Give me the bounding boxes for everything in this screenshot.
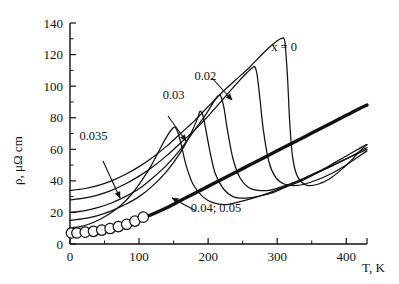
y-tick-label: 100 (44, 79, 64, 94)
x-tick-label: 300 (267, 249, 287, 264)
label-0035-arrowhead (115, 192, 120, 198)
curve-annotations-group: x = 00.020.030.0350.04; 0.05 (79, 40, 297, 215)
label-004-005: 0.04; 0.05 (191, 201, 241, 215)
y-tick-label: 40 (50, 173, 63, 188)
x-axis-ticks (70, 238, 367, 244)
y-tick-label: 60 (50, 142, 63, 157)
label-x0: x = 0 (271, 40, 297, 54)
resistivity-chart-figure: 020406080100120140 0100200300400 x = 00.… (0, 0, 399, 284)
x-axis-tick-labels: 0100200300400 (67, 249, 356, 264)
y-tick-label: 80 (50, 110, 63, 125)
curve-series-2 (70, 95, 367, 212)
x-axis-title: T, K (362, 260, 385, 275)
y-axis-tick-labels: 020406080100120140 (44, 16, 64, 252)
data-marker (138, 212, 148, 222)
x-tick-label: 100 (129, 249, 149, 264)
y-axis-title: ρ, μΩ cm (10, 136, 25, 185)
y-tick-label: 0 (57, 237, 64, 252)
y-tick-label: 120 (44, 47, 64, 62)
label-002: 0.02 (194, 69, 216, 83)
x-tick-label: 0 (67, 249, 74, 264)
label-0035: 0.035 (79, 129, 107, 143)
curve-series-0 (70, 38, 367, 190)
x-tick-label: 400 (337, 249, 357, 264)
y-axis-ticks (70, 23, 76, 244)
x-tick-label: 200 (198, 249, 218, 264)
data-markers-group (66, 212, 148, 238)
label-003: 0.03 (163, 88, 185, 102)
y-tick-label: 20 (50, 205, 63, 220)
chart-canvas: 020406080100120140 0100200300400 x = 00.… (0, 0, 399, 284)
y-tick-label: 140 (44, 16, 64, 31)
